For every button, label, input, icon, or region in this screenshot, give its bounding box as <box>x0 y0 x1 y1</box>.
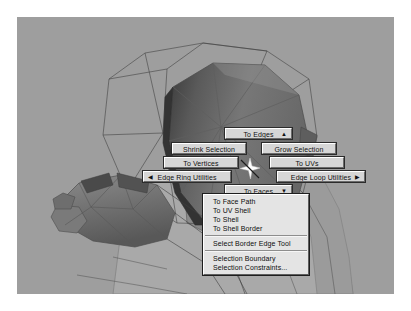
menu-button-edge-loop-utilities[interactable]: Edge Loop Utilities ▶ <box>277 171 365 182</box>
menu-button-grow-selection[interactable]: Grow Selection <box>262 143 336 154</box>
menu-item-selection-boundary[interactable]: Selection Boundary <box>204 254 308 263</box>
menu-button-label: Edge Ring Utilities <box>144 172 230 182</box>
menu-item-to-shell-border[interactable]: To Shell Border <box>204 224 308 233</box>
menu-separator <box>205 250 307 252</box>
chevron-left-icon: ◀ <box>148 172 153 182</box>
menu-button-label: Shrink Selection <box>173 144 245 154</box>
menu-item-select-border-edge-tool[interactable]: Select Border Edge Tool <box>204 239 308 248</box>
menu-item-selection-constraints[interactable]: Selection Constraints... <box>204 263 308 272</box>
menu-item-to-face-path[interactable]: To Face Path <box>204 197 308 206</box>
chevron-right-icon: ▶ <box>355 172 360 182</box>
screenshot-root: To Edges ▲ Shrink Selection Grow Selecti… <box>0 0 411 311</box>
menu-button-label: To Vertices <box>165 158 237 168</box>
menu-button-label: To UVs <box>271 158 343 168</box>
menu-button-label: Grow Selection <box>263 144 335 154</box>
menu-button-to-uvs[interactable]: To UVs <box>270 157 344 168</box>
menu-button-shrink-selection[interactable]: Shrink Selection <box>172 143 246 154</box>
menu-button-label: Edge Loop Utilities <box>278 172 364 182</box>
menu-separator <box>205 235 307 237</box>
submenu-to-faces[interactable]: To Face Path To UV Shell To Shell To She… <box>203 194 309 275</box>
menu-button-edge-ring-utilities[interactable]: ◀ Edge Ring Utilities <box>143 171 231 182</box>
menu-button-to-edges[interactable]: To Edges ▲ <box>225 128 292 139</box>
menu-item-to-shell[interactable]: To Shell <box>204 215 308 224</box>
chevron-up-icon: ▲ <box>281 129 287 139</box>
menu-button-to-vertices[interactable]: To Vertices <box>164 157 238 168</box>
sparkle-cursor-icon <box>238 157 262 181</box>
menu-item-to-uv-shell[interactable]: To UV Shell <box>204 206 308 215</box>
